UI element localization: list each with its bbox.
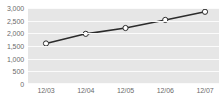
y-axis-tick-label: 2,500 [7, 17, 24, 24]
y-axis-tick-label: 1,500 [7, 43, 24, 50]
x-axis: 12/0312/0412/0512/0612/07 [28, 86, 219, 100]
gridline [28, 21, 219, 22]
data-point-marker [202, 9, 207, 14]
series-markers [43, 9, 207, 46]
y-axis-tick-label: 3,000 [7, 5, 24, 12]
x-axis-tick-label: 12/07 [196, 86, 213, 95]
chart-title-clipped [0, 0, 219, 5]
y-axis-tick-label: 500 [13, 68, 24, 75]
x-axis-tick-label: 12/05 [117, 86, 134, 95]
gridline [28, 59, 219, 60]
y-axis-tick-label: 1,000 [7, 55, 24, 62]
line-chart: 05001,0001,5002,0002,5003,000 12/0312/04… [0, 0, 219, 102]
gridline [28, 33, 219, 34]
y-axis: 05001,0001,5002,0002,5003,000 [0, 8, 27, 84]
y-axis-tick-label: 2,000 [7, 30, 24, 37]
gridline [28, 83, 219, 84]
gridline [28, 46, 219, 47]
data-point-marker [123, 25, 128, 30]
gridline [28, 8, 219, 9]
x-axis-tick-label: 12/06 [157, 86, 174, 95]
x-axis-tick-label: 12/04 [77, 86, 94, 95]
plot-area [28, 8, 219, 84]
x-axis-tick-label: 12/03 [37, 86, 54, 95]
y-axis-tick-label: 0 [20, 81, 24, 88]
gridline [28, 71, 219, 72]
